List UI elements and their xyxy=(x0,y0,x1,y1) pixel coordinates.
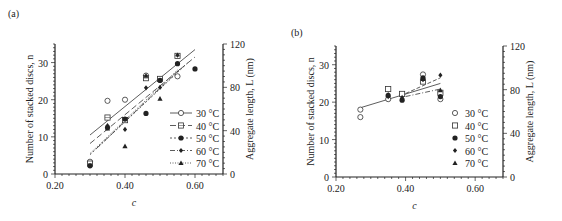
y-axis-right-label: Aggregate length, L (nm) xyxy=(244,58,256,160)
y-right-tick-label: 80 xyxy=(230,82,240,93)
legend-label: 30 °C xyxy=(465,108,488,119)
data-point xyxy=(122,97,127,102)
data-point xyxy=(438,94,443,99)
data-point xyxy=(143,111,148,116)
y-tick-label: 10 xyxy=(319,135,329,146)
y-axis-label: Number of stacked discs, n xyxy=(305,57,316,166)
data-point xyxy=(358,107,363,112)
data-point xyxy=(175,74,180,79)
legend-label: 30 °C xyxy=(196,108,219,119)
y-right-tick-label: 0 xyxy=(510,172,515,183)
data-point xyxy=(122,116,127,121)
legend-marker xyxy=(178,110,183,115)
legend-marker xyxy=(452,160,457,165)
legend-label: 50 °C xyxy=(196,133,219,144)
y-axis-right-label: Aggregate length, L (nm) xyxy=(524,61,536,163)
fit-line xyxy=(97,68,181,148)
figure: (a)0102030040801200.200.400.60cNumber of… xyxy=(0,0,562,221)
y-tick-label: 0 xyxy=(43,169,48,180)
y-tick-label: 30 xyxy=(38,58,48,69)
y-right-tick-label: 120 xyxy=(510,41,525,52)
x-tick-label: 0.20 xyxy=(327,183,345,194)
fit-line xyxy=(90,70,178,154)
x-tick-label: 0.40 xyxy=(397,183,415,194)
legend-label: 70 °C xyxy=(465,158,488,169)
data-point xyxy=(144,85,148,90)
data-point xyxy=(158,85,162,90)
legend-label: 60 °C xyxy=(196,146,219,157)
legend-label: 60 °C xyxy=(465,146,488,157)
chart-panel-b: (b)0102030040801200.200.400.60cNumber of… xyxy=(291,27,536,211)
y-tick-label: 20 xyxy=(38,95,48,106)
data-point xyxy=(358,115,363,120)
y-right-tick-label: 40 xyxy=(230,126,240,137)
x-axis-label: c xyxy=(132,197,137,208)
data-point xyxy=(386,86,391,91)
legend-marker xyxy=(179,148,183,153)
chart-canvas: (a)0102030040801200.200.400.60cNumber of… xyxy=(0,0,562,221)
legend: 30 °C40 °C50 °C60 °C70 °C xyxy=(170,108,219,169)
x-tick-label: 0.40 xyxy=(116,180,134,191)
y-tick-label: 10 xyxy=(38,132,48,143)
chart-panel-a: (a)0102030040801200.200.400.60cNumber of… xyxy=(8,8,256,208)
data-point xyxy=(123,127,127,132)
y-right-tick-label: 0 xyxy=(230,169,235,180)
x-axis-label: c xyxy=(412,200,417,211)
y-tick-label: 30 xyxy=(319,60,329,71)
data-point xyxy=(438,73,442,78)
legend-label: 70 °C xyxy=(196,158,219,169)
legend-marker xyxy=(452,123,457,128)
y-tick-label: 20 xyxy=(319,97,329,108)
x-tick-label: 0.20 xyxy=(46,180,64,191)
y-right-tick-label: 80 xyxy=(510,85,520,96)
legend-marker xyxy=(178,135,183,140)
panel-label: (a) xyxy=(8,8,19,20)
legend-marker xyxy=(452,110,457,115)
data-point xyxy=(122,144,127,149)
panel-label: (b) xyxy=(291,27,303,39)
legend-label: 50 °C xyxy=(465,133,488,144)
y-tick-label: 0 xyxy=(324,172,329,183)
legend: 30 °C40 °C50 °C60 °C70 °C xyxy=(452,108,488,169)
y-right-tick-label: 120 xyxy=(230,39,245,50)
data-point xyxy=(105,98,110,103)
legend-marker xyxy=(452,135,457,140)
data-point xyxy=(157,96,162,101)
data-point xyxy=(87,163,92,168)
legend-label: 40 °C xyxy=(465,121,488,132)
x-tick-label: 0.60 xyxy=(466,183,484,194)
data-point xyxy=(175,61,180,66)
y-axis-label: Number of stacked discs, n xyxy=(24,55,35,164)
data-point xyxy=(192,66,197,71)
legend-marker xyxy=(453,148,457,153)
data-point xyxy=(157,78,162,83)
y-right-tick-label: 40 xyxy=(510,128,520,139)
legend-label: 40 °C xyxy=(196,121,219,132)
x-tick-label: 0.60 xyxy=(186,180,204,191)
